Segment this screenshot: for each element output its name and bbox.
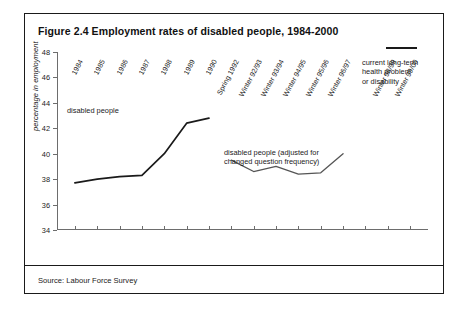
y-tick-label: 40 bbox=[42, 149, 50, 158]
source-note: Source: Labour Force Survey bbox=[38, 276, 137, 285]
y-tick-label: 42 bbox=[42, 124, 50, 133]
y-tick bbox=[53, 230, 57, 231]
source-divider bbox=[25, 265, 443, 266]
annotation-disabled-people: disabled people bbox=[67, 106, 119, 115]
series-line-long-term-health-problem bbox=[386, 47, 417, 49]
figure-panel: Figure 2.4 Employment rates of disabled … bbox=[24, 13, 444, 294]
annotation-disabled-people-adjusted: disabled people (adjusted for changed qu… bbox=[224, 148, 319, 167]
y-axis-title: percentage in employment bbox=[31, 42, 40, 132]
y-tick-label: 34 bbox=[42, 226, 50, 235]
y-tick-label: 48 bbox=[42, 48, 50, 57]
y-tick-label: 46 bbox=[42, 73, 50, 82]
y-tick-label: 38 bbox=[42, 175, 50, 184]
figure-title: Figure 2.4 Employment rates of disabled … bbox=[38, 25, 338, 37]
series-line-disabled-people bbox=[75, 118, 209, 183]
annotation-long-term-health-problem: current long-term health problem or disa… bbox=[362, 58, 418, 86]
y-tick-label: 36 bbox=[42, 200, 50, 209]
y-tick-label: 44 bbox=[42, 98, 50, 107]
